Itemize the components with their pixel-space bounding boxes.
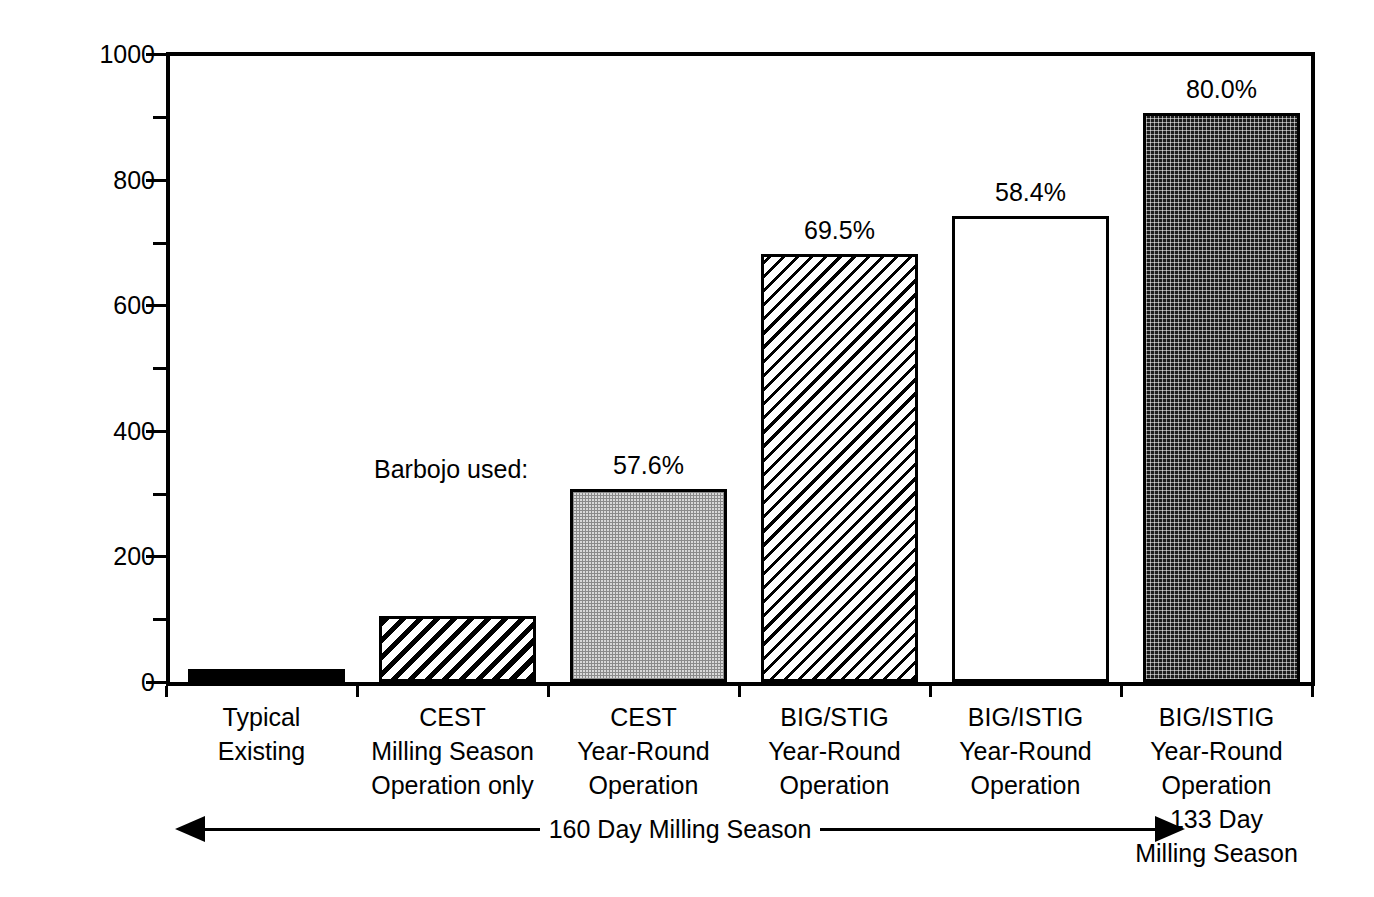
y-tick-label-800: 800 (85, 168, 155, 193)
bar-typical-existing[interactable] (188, 669, 345, 682)
bar-cest-milling[interactable] (379, 616, 536, 682)
category-line: CEST (357, 700, 548, 734)
arrow-line-right (820, 828, 1155, 831)
y-minor-tick-100 (153, 618, 168, 621)
bar-value-bigistig-133day: 80.0% (1143, 75, 1300, 104)
y-minor-tick-900 (153, 116, 168, 119)
category-line: Operation (1121, 768, 1312, 802)
y-minor-tick-300 (153, 493, 168, 496)
x-tick-1 (356, 686, 359, 697)
y-major-tick-0 (146, 681, 168, 684)
x-tick-2 (547, 686, 550, 697)
bar-bigistig-year-round[interactable] (952, 216, 1109, 682)
y-tick-label-600: 600 (85, 293, 155, 318)
category-line: Operation (930, 768, 1121, 802)
y-major-tick-600 (146, 304, 168, 307)
arrow-line-left (205, 828, 540, 831)
category-line: CEST (548, 700, 739, 734)
y-major-tick-200 (146, 555, 168, 558)
y-tick-label-0: 0 (85, 670, 155, 695)
category-label-bigistig-year-round: BIG/ISTIG Year-Round Operation (930, 700, 1121, 802)
category-label-cest-year-round: CEST Year-Round Operation (548, 700, 739, 802)
category-label-cest-milling: CEST Milling Season Operation only (357, 700, 548, 802)
arrow-left-icon (175, 816, 205, 842)
category-line: Operation (739, 768, 930, 802)
category-line: BIG/ISTIG (930, 700, 1121, 734)
category-line: Milling Season (357, 734, 548, 768)
bar-bigistig-133day[interactable] (1143, 113, 1300, 682)
y-minor-tick-700 (153, 242, 168, 245)
category-line: Year-Round (548, 734, 739, 768)
y-major-tick-400 (146, 430, 168, 433)
category-line: Typical (166, 700, 357, 734)
y-major-tick-1000 (146, 53, 168, 56)
x-tick-0 (165, 686, 168, 697)
category-line: Year-Round (1121, 734, 1312, 768)
bar-cest-year-round[interactable] (570, 489, 727, 682)
annotation-milling-season-span: 160 Day Milling Season (175, 813, 1185, 845)
y-tick-label-200: 200 (85, 544, 155, 569)
category-line: BIG/STIG (739, 700, 930, 734)
y-minor-tick-500 (153, 367, 168, 370)
category-label-bigstig-year-round: BIG/STIG Year-Round Operation (739, 700, 930, 802)
category-line: BIG/ISTIG (1121, 700, 1312, 734)
x-tick-3 (738, 686, 741, 697)
x-tick-6 (1311, 686, 1314, 697)
y-tick-label-1000: 1000 (85, 42, 155, 67)
bar-bigstig-year-round[interactable] (761, 254, 918, 682)
arrow-right-icon (1155, 816, 1185, 842)
chart-page: kWh gnerated per tonne cane 1000 800 600… (0, 0, 1374, 897)
category-line: Existing (166, 734, 357, 768)
category-label-typical-existing: Typical Existing (166, 700, 357, 768)
annotation-milling-season-label: 160 Day Milling Season (540, 815, 821, 844)
y-axis-tick-labels: 1000 800 600 400 200 0 (85, 0, 155, 897)
y-tick-label-400: 400 (85, 419, 155, 444)
x-tick-5 (1120, 686, 1123, 697)
y-major-tick-800 (146, 179, 168, 182)
category-line: Year-Round (930, 734, 1121, 768)
plot-area (168, 54, 1315, 682)
x-tick-4 (929, 686, 932, 697)
bar-value-cest-year-round: 57.6% (570, 451, 727, 480)
category-line: Year-Round (739, 734, 930, 768)
category-line: Operation only (357, 768, 548, 802)
bar-value-bigistig-year-round: 58.4% (952, 178, 1109, 207)
annotation-barbojo-used: Barbojo used: (374, 455, 528, 484)
category-line: Operation (548, 768, 739, 802)
bar-value-bigstig-year-round: 69.5% (761, 216, 918, 245)
